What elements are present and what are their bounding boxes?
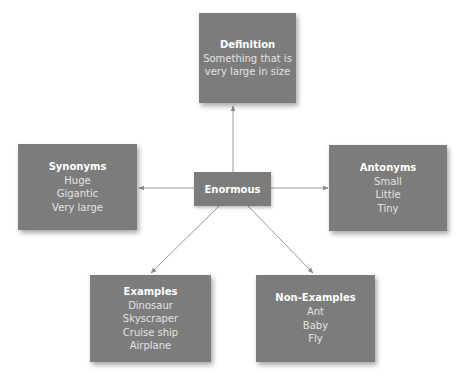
non-examples-node: Non-Examples Ant Baby Fly [256, 275, 375, 362]
definition-line: Something that is [203, 52, 292, 66]
example-item: Skyscraper [123, 312, 178, 326]
antonym-item: Small [374, 175, 402, 189]
synonyms-title: Synonyms [49, 160, 107, 174]
non-example-item: Baby [303, 319, 328, 333]
synonym-item: Very large [52, 201, 103, 215]
edge-to-non-examples [248, 206, 313, 273]
non-examples-title: Non-Examples [275, 291, 355, 305]
edge-to-examples [151, 206, 219, 273]
antonym-item: Tiny [378, 202, 399, 216]
definition-node: Definition Something that is very large … [199, 13, 296, 103]
center-node: Enormous [194, 172, 271, 206]
synonym-item: Huge [64, 174, 90, 188]
definition-title: Definition [220, 38, 275, 52]
antonym-item: Little [375, 188, 400, 202]
non-example-item: Fly [308, 332, 322, 346]
synonym-item: Gigantic [57, 187, 99, 201]
definition-line: very large in size [205, 65, 290, 79]
synonyms-node: Synonyms Huge Gigantic Very large [18, 144, 137, 230]
non-example-item: Ant [307, 305, 324, 319]
example-item: Airplane [130, 339, 171, 353]
center-label: Enormous [204, 184, 260, 195]
example-item: Dinosaur [128, 299, 173, 313]
antonyms-title: Antonyms [360, 161, 417, 175]
example-item: Cruise ship [123, 326, 178, 340]
examples-node: Examples Dinosaur Skyscraper Cruise ship… [90, 275, 211, 362]
antonyms-node: Antonyms Small Little Tiny [329, 145, 447, 231]
examples-title: Examples [124, 285, 178, 299]
